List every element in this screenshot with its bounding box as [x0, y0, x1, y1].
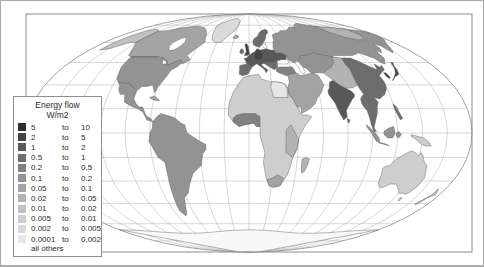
legend-range-from: 0.005 [31, 214, 58, 223]
legend-color-swatch [18, 225, 26, 233]
legend-color-swatch [18, 143, 26, 151]
legend-color-swatch [18, 205, 26, 213]
legend-row: 0.01to0.02 [14, 204, 101, 214]
legend-color-swatch [18, 184, 26, 192]
legend-range-from: 0.002 [31, 224, 58, 233]
legend-to-word: to [62, 194, 77, 203]
legend-range-from: 0.1 [31, 174, 58, 183]
legend-range-to: 0.01 [81, 214, 101, 223]
legend-range-from: 0.01 [31, 204, 58, 213]
legend-range-from: 0.5 [31, 153, 58, 162]
energy-flow-map-figure: Energy flow W/m2 5to102to51to20.5to10.2t… [0, 0, 484, 267]
legend-to-word: to [62, 163, 77, 172]
legend-range-from: 0.2 [31, 163, 58, 172]
legend-to-word: to [62, 123, 77, 132]
land-west-africa [233, 114, 260, 127]
legend-row: 5to10 [14, 122, 101, 132]
legend-row: 0.0001to0.002 [14, 234, 101, 244]
legend-to-word: to [62, 235, 77, 244]
legend-row: 0.05to0.1 [14, 183, 101, 193]
legend-range-to: 0.1 [81, 184, 101, 193]
legend-row: 0.2to0.5 [14, 163, 101, 173]
legend-range-to: 0.02 [81, 204, 101, 213]
legend-row: 1to2 [14, 142, 101, 152]
legend-to-word: to [62, 143, 77, 152]
legend-range-from: 0.0001 [31, 235, 58, 244]
legend-range-to: 10 [81, 123, 101, 132]
map-legend: Energy flow W/m2 5to102to51to20.5to10.2t… [13, 96, 102, 257]
legend-range-to: 5 [81, 133, 101, 142]
legend-range-from: 2 [31, 133, 58, 142]
legend-range-to: 0.005 [81, 224, 101, 233]
legend-range-to: 1 [81, 153, 101, 162]
legend-to-word: to [62, 174, 77, 183]
legend-row: 0.02to0.05 [14, 193, 101, 203]
legend-to-word: to [62, 214, 77, 223]
legend-units: W/m2 [14, 110, 101, 120]
legend-row: 0.002to0.005 [14, 224, 101, 234]
legend-to-word: to [62, 133, 77, 142]
legend-color-swatch [18, 215, 26, 223]
legend-color-swatch [18, 154, 26, 162]
legend-to-word: to [62, 184, 77, 193]
legend-title: Energy flow [14, 100, 101, 110]
legend-to-word: to [62, 224, 77, 233]
legend-to-word: to [62, 204, 77, 213]
legend-range-from: 0.05 [31, 184, 58, 193]
legend-color-swatch [18, 133, 26, 141]
legend-row: 2to5 [14, 132, 101, 142]
legend-row: 0.5to1 [14, 153, 101, 163]
legend-range-from: 1 [31, 143, 58, 152]
legend-range-to: 0.05 [81, 194, 101, 203]
legend-rows: 5to102to51to20.5to10.2to0.50.1to0.20.05t… [14, 122, 101, 244]
legend-color-swatch [18, 123, 26, 131]
legend-range-from: 0.02 [31, 194, 58, 203]
legend-range-to: 0.2 [81, 174, 101, 183]
legend-row: 0.005to0.01 [14, 214, 101, 224]
legend-row: 0.1to0.2 [14, 173, 101, 183]
water-black-sea [277, 60, 290, 64]
legend-color-swatch [18, 194, 26, 202]
legend-to-word: to [62, 153, 77, 162]
legend-color-swatch [18, 164, 26, 172]
legend-all-others: all others [14, 244, 101, 254]
legend-range-to: 0.5 [81, 163, 101, 172]
legend-color-swatch [18, 174, 26, 182]
legend-range-to: 2 [81, 143, 101, 152]
legend-color-swatch [18, 235, 26, 243]
legend-range-from: 5 [31, 123, 58, 132]
legend-range-to: 0.002 [81, 235, 101, 244]
